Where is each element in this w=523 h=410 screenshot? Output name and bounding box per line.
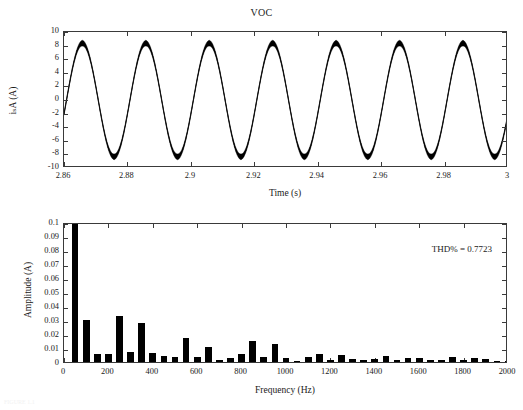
spectrum-bar bbox=[471, 358, 478, 362]
x-tick-mark bbox=[254, 162, 255, 166]
spectrum-bar bbox=[149, 353, 156, 362]
x-tick-label: 800 bbox=[234, 368, 247, 376]
spectrum-bar bbox=[427, 360, 434, 362]
y-tick-mark bbox=[64, 154, 68, 155]
y-tick-label: 0.1 bbox=[33, 219, 59, 227]
y-tick-label: -2 bbox=[35, 108, 59, 116]
x-tick-label: 1800 bbox=[454, 368, 471, 376]
y-tick-label: 0.08 bbox=[33, 247, 59, 255]
y-tick-mark bbox=[64, 336, 68, 337]
x-tick-mark bbox=[191, 162, 192, 166]
x-tick-mark bbox=[108, 224, 109, 228]
spectrum-x-axis-label: Frequency (Hz) bbox=[63, 385, 507, 395]
spectrum-bar bbox=[260, 357, 267, 362]
y-tick-label: -6 bbox=[35, 136, 59, 144]
x-tick-label: 2.94 bbox=[309, 172, 324, 180]
spectrum-bar bbox=[349, 359, 356, 362]
x-tick-label: 200 bbox=[101, 368, 114, 376]
waveform-fundamental bbox=[64, 43, 507, 158]
y-tick-mark bbox=[502, 294, 506, 295]
waveform-title: VOC bbox=[0, 7, 523, 18]
x-tick-label: 1600 bbox=[410, 368, 427, 376]
spectrum-bar bbox=[460, 360, 467, 362]
y-tick-label: 6 bbox=[35, 54, 59, 62]
x-tick-label: 2.9 bbox=[185, 172, 195, 180]
y-tick-label: -10 bbox=[35, 163, 59, 171]
y-tick-label: 4 bbox=[35, 68, 59, 76]
spectrum-bar bbox=[249, 341, 256, 362]
x-tick-label: 0 bbox=[61, 368, 65, 376]
y-tick-mark bbox=[502, 154, 506, 155]
y-tick-mark bbox=[502, 266, 506, 267]
y-tick-mark bbox=[64, 252, 68, 253]
y-tick-label: 0.09 bbox=[33, 233, 59, 241]
y-tick-label: 0.02 bbox=[33, 331, 59, 339]
y-tick-mark bbox=[502, 252, 506, 253]
y-tick-mark bbox=[502, 59, 506, 60]
y-tick-label: 0 bbox=[33, 359, 59, 367]
x-tick-mark bbox=[286, 224, 287, 228]
x-tick-label: 2.88 bbox=[119, 172, 134, 180]
waveform-x-axis-label: Time (s) bbox=[63, 188, 507, 198]
x-tick-mark bbox=[318, 32, 319, 36]
y-tick-mark bbox=[502, 114, 506, 115]
y-tick-mark bbox=[64, 46, 68, 47]
x-tick-mark bbox=[445, 32, 446, 36]
x-tick-mark bbox=[375, 224, 376, 228]
spectrum-bar bbox=[405, 358, 412, 362]
y-tick-mark bbox=[502, 224, 506, 225]
spectrum-bar bbox=[205, 347, 212, 362]
y-tick-mark bbox=[64, 59, 68, 60]
x-tick-label: 2000 bbox=[499, 368, 516, 376]
y-tick-mark bbox=[502, 336, 506, 337]
spectrum-bar bbox=[161, 356, 168, 362]
spectrum-bar bbox=[316, 354, 323, 362]
y-tick-mark bbox=[502, 280, 506, 281]
spectrum-bar bbox=[505, 361, 507, 362]
y-tick-mark bbox=[64, 280, 68, 281]
y-tick-mark bbox=[64, 100, 68, 101]
figure-caption: FIGURE 1.1 bbox=[4, 399, 35, 405]
x-tick-mark bbox=[242, 224, 243, 228]
spectrum-bar bbox=[294, 361, 301, 362]
y-tick-label: 0.07 bbox=[33, 261, 59, 269]
x-tick-label: 3 bbox=[505, 172, 509, 180]
spectrum-bar bbox=[227, 358, 234, 362]
spectrum-bar bbox=[116, 316, 123, 362]
x-tick-mark bbox=[197, 224, 198, 228]
x-tick-mark bbox=[127, 32, 128, 36]
spectrum-bar bbox=[438, 360, 445, 362]
spectrum-bar bbox=[272, 344, 279, 362]
y-tick-mark bbox=[64, 322, 68, 323]
spectrum-bar bbox=[172, 357, 179, 362]
y-tick-label: 10 bbox=[35, 27, 59, 35]
spectrum-bar bbox=[283, 358, 290, 362]
spectrum-bar bbox=[494, 361, 501, 362]
thd-annotation: THD% = 0.7723 bbox=[432, 244, 492, 254]
y-tick-mark bbox=[64, 350, 68, 351]
spectrum-bar bbox=[105, 354, 112, 362]
waveform-axes bbox=[63, 31, 507, 167]
spectrum-bar bbox=[94, 354, 101, 362]
spectrum-bar bbox=[394, 360, 401, 362]
spectrum-bar bbox=[360, 360, 367, 362]
spectrum-bar bbox=[371, 359, 378, 362]
x-tick-mark bbox=[464, 224, 465, 228]
y-tick-label: 0.01 bbox=[33, 345, 59, 353]
x-tick-mark bbox=[127, 162, 128, 166]
y-tick-mark bbox=[64, 266, 68, 267]
y-tick-mark bbox=[502, 46, 506, 47]
x-tick-label: 1000 bbox=[277, 368, 294, 376]
y-tick-mark bbox=[64, 294, 68, 295]
y-tick-label: 0.04 bbox=[33, 303, 59, 311]
spectrum-y-axis-label: Amplitude (A) bbox=[23, 240, 33, 340]
x-tick-mark bbox=[254, 32, 255, 36]
x-tick-mark bbox=[64, 162, 65, 166]
y-tick-mark bbox=[502, 127, 506, 128]
x-tick-mark bbox=[64, 224, 65, 228]
spectrum-bar bbox=[72, 223, 79, 362]
y-tick-label: 2 bbox=[35, 81, 59, 89]
x-tick-mark bbox=[153, 224, 154, 228]
x-tick-mark bbox=[419, 224, 420, 228]
spectrum-bar bbox=[194, 357, 201, 362]
